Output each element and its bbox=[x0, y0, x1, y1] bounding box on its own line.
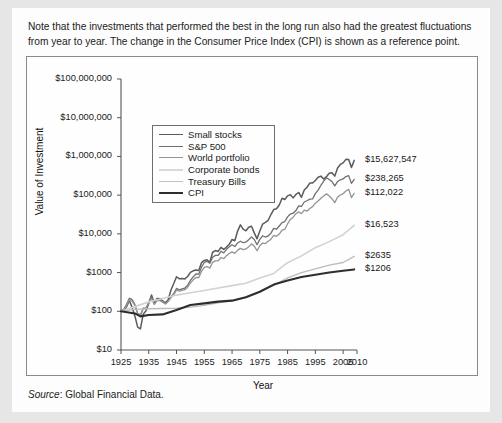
series-end-label: $112,022 bbox=[365, 187, 403, 197]
chart-plot-frame: Small stocksS&P 500World portfolioCorpor… bbox=[26, 56, 478, 376]
series-end-label: $15,627,547 bbox=[365, 154, 417, 164]
y-tick-label: $10,000 bbox=[78, 228, 112, 238]
source-text: Global Financial Data. bbox=[65, 389, 163, 400]
legend-item[interactable]: CPI bbox=[157, 187, 270, 199]
source-line: Source: Global Financial Data. bbox=[28, 389, 164, 400]
legend-swatch-icon bbox=[159, 157, 183, 158]
figure-note: Note that the investments that performed… bbox=[28, 20, 480, 49]
x-tick-label: 2010 bbox=[337, 357, 377, 367]
y-tick-label: $100 bbox=[91, 305, 112, 315]
source-label: Source bbox=[28, 389, 60, 400]
y-tick-label: $1000 bbox=[86, 267, 112, 277]
series-end-label: $2635 bbox=[365, 250, 391, 260]
legend-swatch-icon bbox=[159, 192, 183, 194]
legend-item-label: Corporate bonds bbox=[188, 164, 259, 175]
y-tick-label: $100,000 bbox=[73, 189, 112, 199]
legend-item[interactable]: World portfolio bbox=[157, 152, 270, 164]
legend-item[interactable]: Treasury Bills bbox=[157, 175, 270, 187]
legend-swatch-icon bbox=[159, 169, 183, 171]
legend-item-label: CPI bbox=[188, 187, 204, 198]
legend-item-label: Treasury Bills bbox=[188, 176, 246, 187]
legend-item[interactable]: S&P 500 bbox=[157, 141, 270, 153]
figure-card: Note that the investments that performed… bbox=[12, 8, 490, 412]
y-tick-label: $10 bbox=[96, 344, 112, 354]
legend-swatch-icon bbox=[159, 146, 183, 147]
legend-item-label: S&P 500 bbox=[188, 141, 226, 152]
legend-item[interactable]: Corporate bonds bbox=[157, 164, 270, 176]
legend-item[interactable]: Small stocks bbox=[157, 129, 270, 141]
legend-item-label: Small stocks bbox=[188, 129, 242, 140]
y-tick-label: $1,000,000 bbox=[65, 150, 112, 160]
series-end-label: $16,523 bbox=[365, 219, 399, 229]
legend-swatch-icon bbox=[159, 181, 183, 182]
y-tick-label: $100,000,000 bbox=[55, 73, 112, 83]
chart-legend: Small stocksS&P 500World portfolioCorpor… bbox=[152, 125, 275, 203]
axis-spines bbox=[121, 79, 357, 350]
y-axis-title: Value of Investment bbox=[34, 128, 45, 216]
legend-swatch-icon bbox=[159, 134, 183, 135]
series-end-label: $238,265 bbox=[365, 173, 404, 183]
series-line bbox=[121, 189, 354, 314]
series-end-label: $1206 bbox=[365, 263, 391, 273]
legend-item-label: World portfolio bbox=[188, 152, 250, 163]
y-tick-label: $10,000,000 bbox=[60, 112, 112, 122]
chart-svg bbox=[27, 57, 479, 377]
